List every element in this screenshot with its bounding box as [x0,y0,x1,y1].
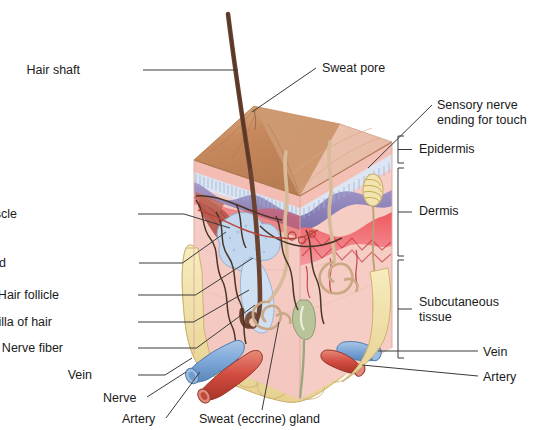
label-hair-shaft: Hair shaft [27,63,81,77]
label-sweat-eccrine-gland: Sweat (eccrine) gland [199,412,320,426]
label-dermis: Dermis [419,204,459,218]
leader-artery-bottom [166,372,200,418]
label-artery-right: Artery [483,370,516,384]
label-vein-left: Vein [68,368,92,382]
label-sebaceous-oil-gland: Sebaceous (oil) gland [0,256,6,270]
label-subcutaneous-tissue-line1: Subcutaneous [419,295,499,310]
label-nerve-fiber: Nerve fiber [2,341,63,355]
layer-brackets [398,136,412,358]
leader-vein-left [138,358,192,375]
label-artery-bottom: Artery [122,412,155,426]
bracket-epidermis [398,136,412,163]
label-nerve: Nerve [103,391,136,405]
label-arrector-pili-muscle: Arrector pili muscle [0,207,17,221]
label-sweat-pore: Sweat pore [322,61,385,75]
leader-nerve [147,372,186,397]
skin-anatomy-figure: Hair shaftArrector pili muscleSebaceous … [0,0,535,430]
bracket-dermis [398,168,412,256]
label-subcutaneous-tissue: Subcutaneoustissue [419,295,499,325]
label-sensory-nerve-ending-for-touch-line1: Sensory nerve [437,98,527,113]
bracket-subcutaneous-tissue [398,260,412,358]
label-epidermis: Epidermis [419,142,475,156]
label-hair-follicle: Hair follicle [0,288,59,302]
leader-artery-right [362,365,478,376]
label-vein-right: Vein [483,345,507,359]
label-sensory-nerve-ending-for-touch-line2: ending for touch [437,113,527,128]
label-sensory-nerve-ending-for-touch: Sensory nerveending for touch [437,98,527,128]
label-subcutaneous-tissue-line2: tissue [419,310,499,325]
label-papilla-of-hair: Papilla of hair [0,315,52,329]
leader-sweat-pore [252,68,316,112]
